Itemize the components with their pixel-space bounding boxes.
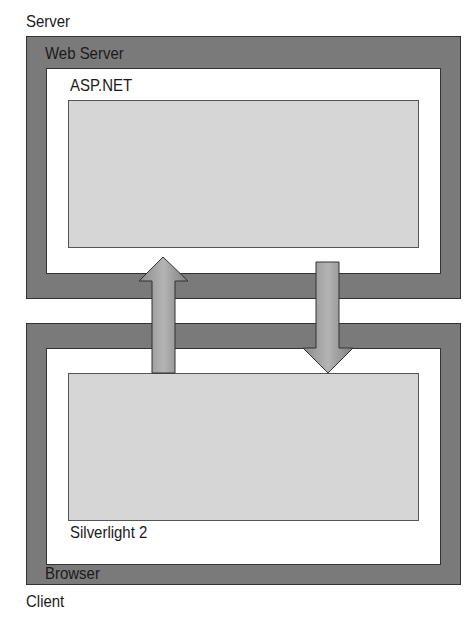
down-arrow-icon (303, 262, 353, 373)
up-arrow-icon (139, 257, 188, 373)
arrows-layer (0, 0, 476, 622)
